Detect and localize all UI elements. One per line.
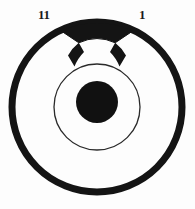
tick-label-11: 11 [38,8,50,21]
sector-leg-left [68,43,84,67]
sector-leg-right [110,43,126,67]
annulus-diagram [0,0,195,209]
tick-label-1: 1 [139,8,145,21]
figure-container: 11 1 [0,0,195,209]
center-dot [76,81,118,123]
